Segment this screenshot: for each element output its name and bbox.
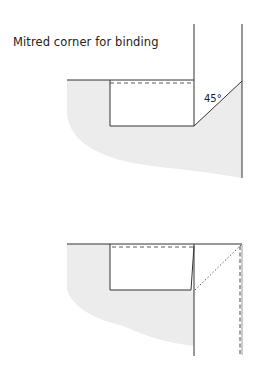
figure-step-1: 45° — [67, 24, 242, 178]
quilt-fill-bottom — [67, 244, 194, 346]
mitred-corner-diagram: 45° — [0, 0, 257, 374]
mitre-diagonal-dotted — [195, 245, 241, 290]
figure-step-2 — [67, 244, 242, 356]
angle-label: 45° — [204, 93, 222, 104]
